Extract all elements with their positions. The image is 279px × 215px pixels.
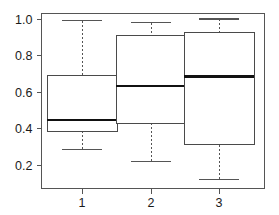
y-axis-tick-label: 1.0 (15, 13, 32, 27)
y-axis-tick-label: 0.8 (15, 49, 32, 63)
box-rect (47, 76, 117, 132)
y-axis-tick-label: 0.6 (15, 86, 32, 100)
boxplot-figure: 0.20.40.60.81.0123 (0, 0, 279, 215)
y-axis-tick-label: 0.2 (15, 159, 32, 173)
x-axis-tick-label: 1 (79, 196, 86, 210)
y-axis-tick-label: 0.4 (15, 122, 32, 136)
x-axis-tick-label: 2 (148, 196, 155, 210)
x-axis-tick-label: 3 (216, 196, 223, 210)
box-rect (184, 33, 254, 145)
boxplot-canvas: 0.20.40.60.81.0123 (0, 0, 279, 215)
box-rect (116, 35, 186, 123)
